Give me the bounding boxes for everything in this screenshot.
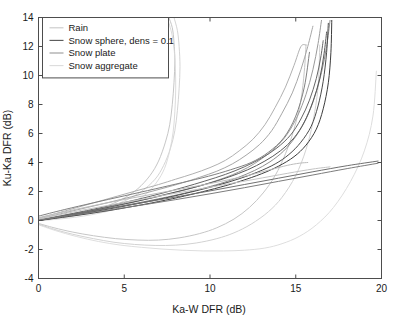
y-tick-label: 8 [28, 99, 34, 110]
y-tick-label: 12 [22, 41, 34, 52]
x-tick-label: 10 [204, 283, 216, 294]
y-tick-label: 6 [28, 128, 34, 139]
y-axis-label: Ku-Ka DFR (dB) [1, 110, 13, 186]
x-tick-label: 5 [121, 283, 127, 294]
chart-figure: 05101520 -4-202468101214 Ka-W DFR (dB) K… [0, 0, 397, 321]
y-tick-label: 14 [22, 12, 34, 23]
x-tick-label: 0 [36, 283, 42, 294]
x-axis-label: Ka-W DFR (dB) [172, 303, 246, 315]
legend-label: Snow sphere, dens = 0.1 [69, 35, 174, 46]
legend-label: Snow plate [69, 47, 116, 58]
y-tick-label: -2 [25, 244, 34, 255]
y-tick-label: 4 [28, 157, 34, 168]
y-tick-label: 10 [22, 70, 34, 81]
x-tick-label: 15 [290, 283, 302, 294]
x-tick-label: 20 [376, 283, 388, 294]
legend-label: Snow aggregate [69, 60, 138, 71]
legend-label: Rain [69, 22, 89, 33]
y-tick-label: 0 [28, 215, 34, 226]
y-tick-label: 2 [28, 186, 34, 197]
dfr-scatter-plot: 05101520 -4-202468101214 Ka-W DFR (dB) K… [0, 0, 397, 321]
y-tick-label: -4 [25, 273, 34, 284]
chart-legend: RainSnow sphere, dens = 0.1Snow plateSno… [43, 18, 174, 78]
